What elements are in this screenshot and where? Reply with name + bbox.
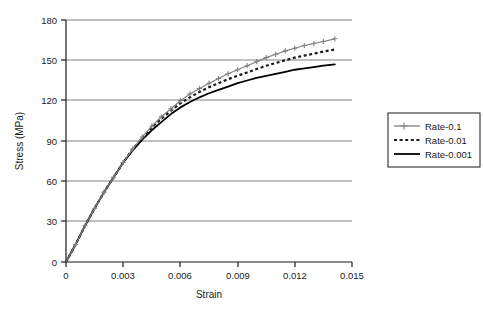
ytick-label-120: 120: [41, 95, 57, 106]
ytick-label-150: 150: [41, 55, 57, 66]
xtick-label-0.012: 0.012: [283, 270, 307, 281]
ytick-label-180: 180: [41, 15, 57, 26]
xtick-label-0.015: 0.015: [340, 270, 364, 281]
ytick-label-90: 90: [46, 136, 57, 147]
legend-label-rate-0.001: Rate-0.001: [425, 149, 472, 160]
ytick-label-0: 0: [52, 257, 57, 268]
ytick-label-30: 30: [46, 216, 57, 227]
legend-label-rate-0.01: Rate-0.01: [425, 135, 467, 146]
xtick-label-0.003: 0.003: [111, 270, 135, 281]
x-axis-ticks: [66, 262, 352, 267]
y-axis-title: Stress (MPa): [14, 112, 25, 170]
xtick-label-0: 0: [63, 270, 68, 281]
stress-strain-chart: 180 150 120 90 60 30 0 0 0.003 0.006 0.0…: [0, 0, 484, 312]
ytick-label-60: 60: [46, 176, 57, 187]
legend: Rate-0.1 Rate-0.01 Rate-0.001: [388, 113, 480, 167]
xtick-label-0.009: 0.009: [226, 270, 250, 281]
y-axis-ticks: [61, 20, 66, 262]
xtick-label-0.006: 0.006: [168, 270, 192, 281]
x-axis-title: Strain: [196, 289, 222, 300]
legend-label-rate-0.1: Rate-0.1: [425, 121, 461, 132]
